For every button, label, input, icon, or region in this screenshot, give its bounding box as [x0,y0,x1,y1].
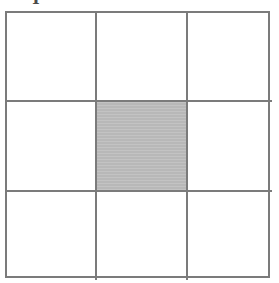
grid-cell-r1c2[interactable] [97,13,188,102]
grid-cell-r2c3[interactable] [188,102,272,192]
grid-cell-r3c3[interactable] [188,192,272,280]
grid-cell-r1c1[interactable] [7,13,97,102]
grid-cell-r3c1[interactable] [7,192,97,280]
grid-cell-r2c2-shaded[interactable] [97,102,188,192]
grid-cell-r1c3[interactable] [188,13,272,102]
figure-root: I [0,0,279,283]
grid-cell-r2c1[interactable] [7,102,97,192]
grid-cell-r3c2[interactable] [97,192,188,280]
grid-3x3 [5,11,270,278]
figure-label-fragment: I [28,0,44,7]
